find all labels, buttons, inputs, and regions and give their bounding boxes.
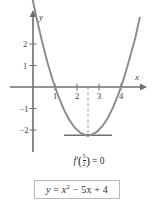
equation-lhs: y — [46, 185, 51, 196]
annotation-fraction: 52 — [83, 153, 86, 167]
x-tick-label-3: 3 — [97, 91, 101, 101]
x-tick-label-2: 2 — [75, 91, 79, 101]
vertex-point — [87, 134, 90, 137]
annotation-open-paren: ( — [78, 155, 82, 167]
derivative-annotation: f′(52)= 0 — [58, 152, 120, 169]
x-axis-label: x — [134, 72, 139, 82]
equation-box: y = x2 − 5x + 4 — [34, 180, 120, 199]
annotation-equals: = — [92, 156, 97, 166]
equation-text: y = x2 − 5x + 4 — [46, 183, 108, 195]
y-tick-label-neg2: −2 — [19, 125, 28, 135]
equation-equals: = — [53, 185, 59, 196]
y-tick-label-1: 1 — [23, 61, 27, 71]
equation-rhs-rest: − 5x + 4 — [73, 185, 108, 196]
y-axis-label: y — [38, 12, 43, 22]
y-axis — [30, 10, 37, 152]
y-tick-label-neg1: −1 — [19, 104, 28, 114]
parabola-plot: 1 2 3 4 2 1 −1 −2 x y — [0, 0, 154, 172]
equation-rhs-exponent: 2 — [66, 183, 69, 190]
annotation-close-paren: ) — [86, 155, 90, 167]
y-tick-label-2: 2 — [23, 39, 27, 49]
annotation-fraction-denominator: 2 — [83, 161, 86, 167]
annotation-value: 0 — [100, 156, 105, 166]
x-axis — [10, 84, 147, 91]
parabola-figure: 1 2 3 4 2 1 −1 −2 x y f′(52)= 0 y = x2 −… — [0, 0, 154, 208]
